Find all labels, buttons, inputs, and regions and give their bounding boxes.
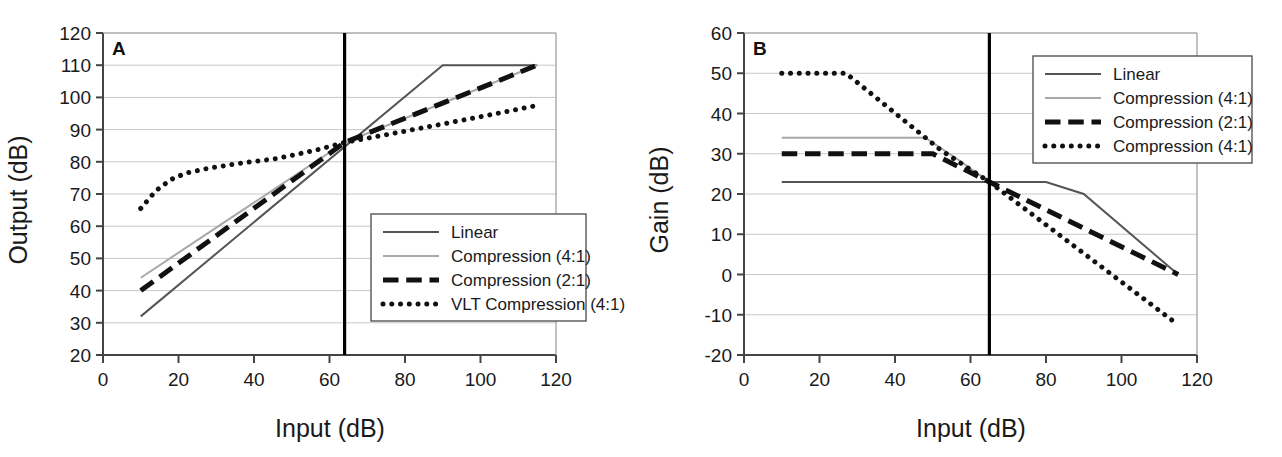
series-1-compression-4-1 [782, 138, 990, 182]
x-axis-title-panel-b: Input (dB) [916, 414, 1026, 442]
legend-label-3: VLT Compression (4:1) [451, 295, 625, 314]
chart-panel-b: -20-100102030405060020406080100120 Linea… [641, 0, 1282, 457]
y-tick-label-100: 100 [59, 87, 91, 108]
y-tick-label-40: 40 [711, 104, 732, 125]
legend-label-0: Linear [1113, 65, 1161, 84]
y-tick-label-120: 120 [59, 23, 91, 44]
y-tick-label-10: 10 [711, 224, 732, 245]
legend-label-2: Compression (2:1) [451, 271, 591, 290]
series-2-compression-2-1 [782, 154, 1178, 275]
x-tick-label-20: 20 [168, 369, 189, 390]
panel-a-svg: 2030405060708090100110120020406080100120… [0, 0, 641, 457]
panel-letter-b: B [753, 38, 767, 59]
figure-container: 2030405060708090100110120020406080100120… [0, 0, 1282, 457]
y-tick-label-20: 20 [70, 345, 91, 366]
x-tick-label-0: 0 [98, 369, 109, 390]
series-0-linear [782, 182, 1178, 275]
panel-letter-a: A [112, 38, 126, 59]
chart-panel-a: 2030405060708090100110120020406080100120… [0, 0, 641, 457]
series-3-vlt-compression-4-1 [141, 105, 537, 208]
panel-b-svg: -20-100102030405060020406080100120 Linea… [641, 0, 1282, 457]
x-tick-label-0: 0 [739, 369, 750, 390]
y-tick-label-30: 30 [711, 144, 732, 165]
x-tick-label-100: 100 [465, 369, 497, 390]
y-tick-label-20: 20 [711, 184, 732, 205]
y-tick-label--10: -10 [705, 305, 732, 326]
legend-label-2: Compression (2:1) [1113, 113, 1253, 132]
y-axis-title-panel-a: Output (dB) [4, 135, 32, 264]
y-tick-label-40: 40 [70, 281, 91, 302]
x-tick-label-120: 120 [540, 369, 572, 390]
y-tick-label-30: 30 [70, 313, 91, 334]
x-tick-label-80: 80 [394, 369, 415, 390]
y-tick-label-50: 50 [70, 248, 91, 269]
x-tick-label-120: 120 [1181, 369, 1213, 390]
y-tick-label-0: 0 [721, 265, 732, 286]
legend-panel-a: LinearCompression (4:1)Compression (2:1)… [371, 214, 625, 321]
y-tick-label-50: 50 [711, 63, 732, 84]
x-tick-label-80: 80 [1035, 369, 1056, 390]
y-tick-label-110: 110 [61, 55, 91, 76]
x-tick-label-40: 40 [884, 369, 905, 390]
x-tick-label-20: 20 [809, 369, 830, 390]
x-tick-label-100: 100 [1106, 369, 1138, 390]
y-axis-title-panel-b: Gain (dB) [645, 147, 673, 254]
x-axis-title-panel-a: Input (dB) [275, 414, 385, 442]
y-tick-label-70: 70 [70, 184, 91, 205]
x-tick-label-60: 60 [319, 369, 340, 390]
y-tick-label-80: 80 [70, 152, 91, 173]
legend-label-0: Linear [451, 223, 499, 242]
legend-panel-b: LinearCompression (4:1)Compression (2:1)… [1033, 56, 1253, 163]
legend-label-3: Compression (4:1) [1113, 137, 1253, 156]
y-tick-label-60: 60 [70, 216, 91, 237]
y-tick-label--20: -20 [705, 345, 732, 366]
y-tick-label-90: 90 [70, 120, 91, 141]
x-tick-label-40: 40 [243, 369, 264, 390]
x-tick-label-60: 60 [960, 369, 981, 390]
legend-label-1: Compression (4:1) [451, 247, 591, 266]
tick-labels-panel-a: 2030405060708090100110120020406080100120 [59, 23, 572, 390]
y-tick-label-60: 60 [711, 23, 732, 44]
legend-label-1: Compression (4:1) [1113, 89, 1253, 108]
